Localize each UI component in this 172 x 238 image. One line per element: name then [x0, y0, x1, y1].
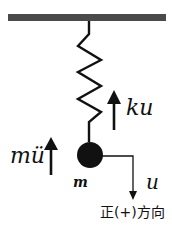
spring-force-label: ku [126, 97, 154, 119]
displacement-arrow [101, 156, 137, 200]
ceiling-bar [8, 14, 166, 21]
inertial-force-arrow [44, 137, 58, 175]
inertial-force-label: mü [10, 145, 45, 167]
positive-direction-label: 正(+)方向 [100, 204, 165, 220]
displacement-label: u [146, 172, 159, 192]
mass-ball [77, 142, 103, 168]
mass-label: m [73, 174, 88, 190]
spring-force-arrow [107, 90, 121, 130]
spring [78, 21, 101, 142]
